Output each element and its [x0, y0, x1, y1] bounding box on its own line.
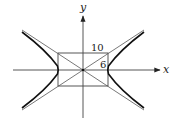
y-axis-label: y: [79, 1, 87, 14]
origin-point: [82, 69, 85, 72]
rectangle-height-label: 6: [100, 59, 106, 70]
hyperbola-diagram: y x 10 6: [0, 0, 175, 125]
rectangle-width-label: 10: [91, 42, 104, 53]
x-axis-label: x: [163, 63, 170, 76]
